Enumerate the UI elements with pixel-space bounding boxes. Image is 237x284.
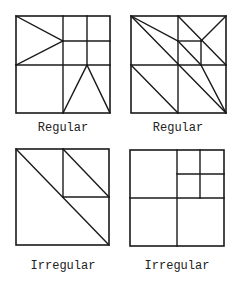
partition-line xyxy=(201,16,226,41)
partition-line xyxy=(63,149,109,197)
panel-label-irregular-2: Irregular xyxy=(122,259,232,273)
partition-line xyxy=(63,65,87,113)
panel-label-irregular-1: Irregular xyxy=(8,259,118,273)
partition-line xyxy=(87,65,110,113)
quadtree-figure xyxy=(0,0,237,284)
partition-line xyxy=(131,65,178,113)
partition-line xyxy=(16,41,63,65)
panel-regular-2 xyxy=(131,16,226,113)
panel-label-regular-1: Regular xyxy=(8,121,118,135)
panel-irregular-2 xyxy=(130,150,224,246)
partition-line xyxy=(16,16,63,41)
partition-line xyxy=(201,65,226,113)
panel-regular-1 xyxy=(16,16,110,113)
partition-line xyxy=(178,41,201,65)
partition-line xyxy=(131,16,178,41)
panel-label-regular-2: Regular xyxy=(123,121,233,135)
panel-irregular-1 xyxy=(16,149,109,245)
